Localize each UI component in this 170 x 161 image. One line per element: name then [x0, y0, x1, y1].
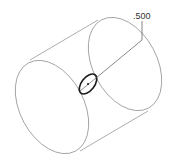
- dimension-label: .500: [133, 11, 151, 21]
- left-end-face: [0, 48, 103, 161]
- top-silhouette-line: [30, 20, 98, 60]
- dimension-leader: [96, 21, 142, 78]
- cylinder-drawing: .500: [0, 0, 170, 161]
- bottom-silhouette-line: [80, 111, 148, 151]
- right-end-face: [73, 5, 170, 123]
- hole-center-point: [87, 83, 89, 85]
